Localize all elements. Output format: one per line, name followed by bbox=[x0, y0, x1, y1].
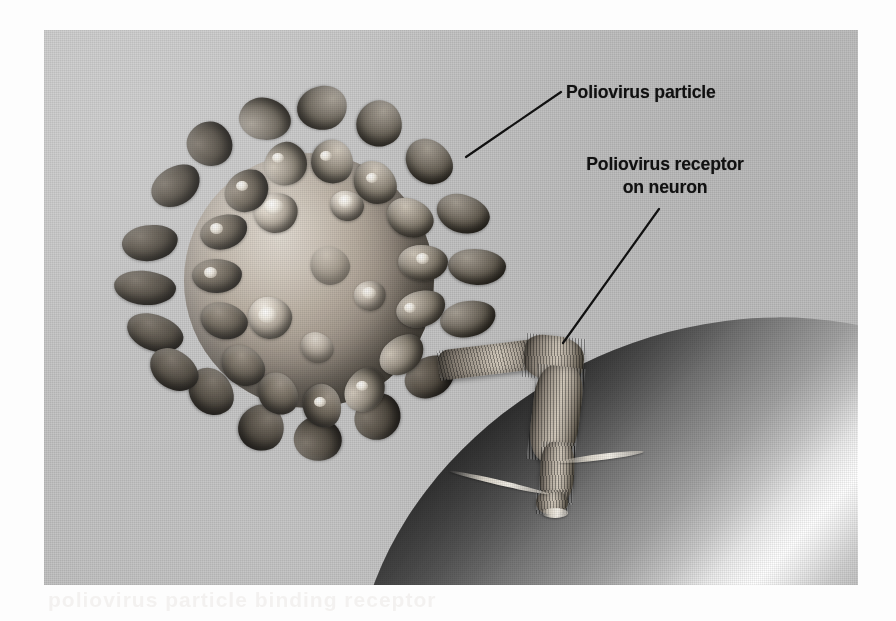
label-poliovirus-particle: Poliovirus particle bbox=[566, 80, 716, 103]
figure-photo-plate bbox=[44, 30, 858, 585]
page-bleedthrough-text: poliovirus particle binding receptor bbox=[48, 588, 748, 618]
figure-root: poliovirus particle binding receptor bbox=[0, 0, 896, 621]
label-poliovirus-receptor: Poliovirus receptor on neuron bbox=[573, 152, 757, 198]
label-receptor-line2: on neuron bbox=[573, 175, 757, 198]
label-receptor-line1: Poliovirus receptor bbox=[573, 152, 757, 175]
receptor-tendril-base bbox=[542, 508, 568, 518]
poliovirus-receptor bbox=[436, 330, 636, 530]
receptor-tendril-left bbox=[449, 469, 550, 497]
